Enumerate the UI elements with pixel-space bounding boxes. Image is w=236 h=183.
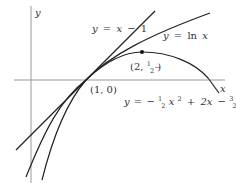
point-2-half-label: (2, 1 2 ): [130, 57, 161, 75]
tangent-line-label: y = x − 1: [91, 23, 147, 34]
ln-label: y = ln x: [162, 30, 208, 41]
y-axis-label: y: [34, 7, 41, 18]
point-2-half: [140, 50, 144, 54]
point-1-0-label: (1, 0): [90, 84, 117, 95]
parabola-label: y = − 1 2 x 2 + 2x − 3 2: [123, 92, 236, 110]
diagram: y x y = x − 1 y = ln x (2, 1 2 ) (1, 0) …: [0, 0, 236, 183]
x-axis-label: x: [220, 83, 226, 94]
parabola-curve: [26, 52, 219, 177]
